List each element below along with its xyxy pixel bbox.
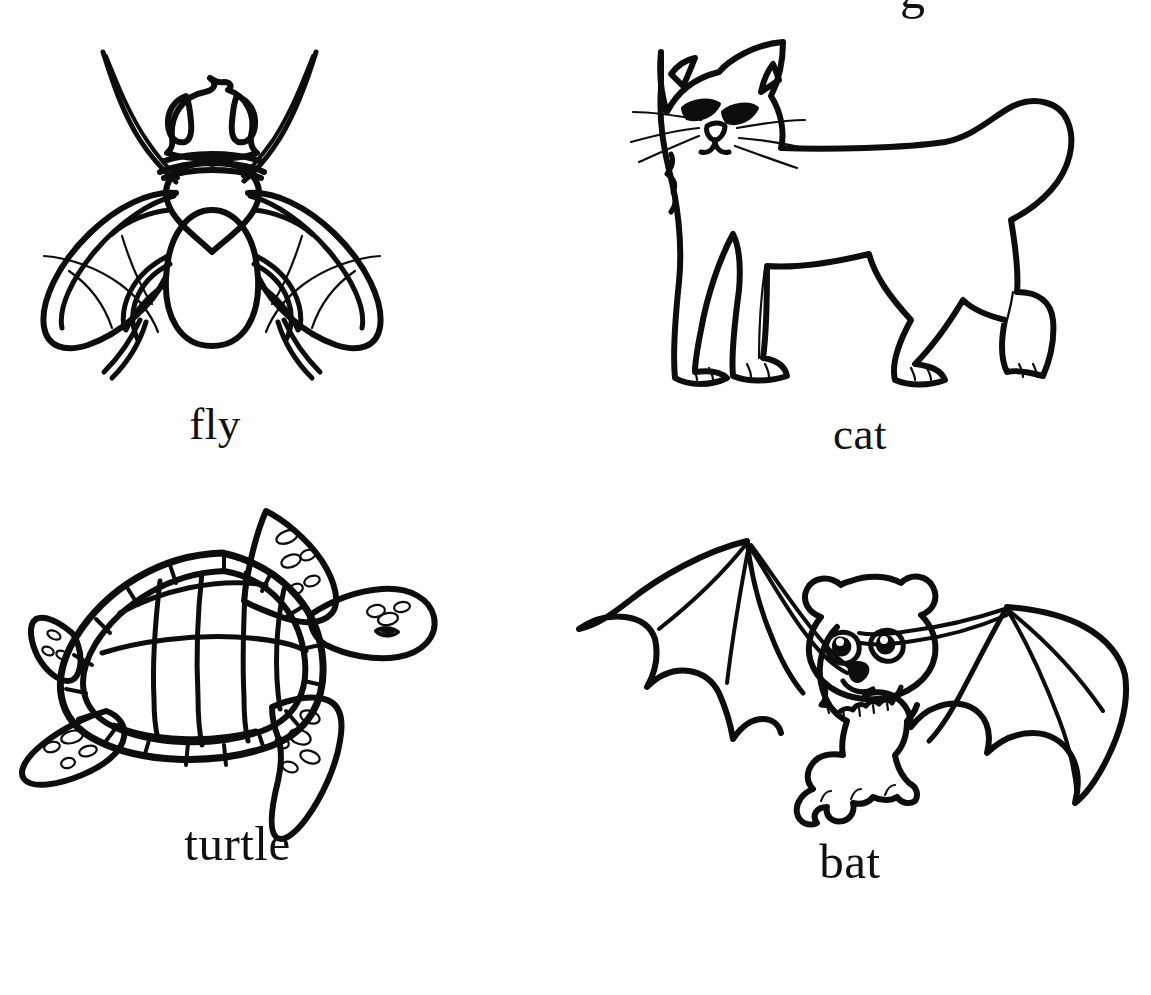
worksheet-page: g bbox=[0, 0, 1151, 995]
label-cat: cat bbox=[615, 408, 1105, 460]
picture-card-fly[interactable]: fly bbox=[0, 20, 430, 460]
turtle-line-art bbox=[10, 485, 465, 845]
label-bat: bat bbox=[555, 833, 1145, 890]
picture-card-cat[interactable]: cat bbox=[615, 20, 1105, 460]
cat-line-art bbox=[615, 20, 1105, 400]
label-fly: fly bbox=[0, 398, 430, 450]
cut-off-glyph: g bbox=[900, 0, 925, 20]
picture-card-bat[interactable]: bat bbox=[555, 515, 1145, 905]
picture-card-turtle[interactable]: turtle bbox=[10, 485, 465, 905]
bat-line-art bbox=[555, 515, 1145, 835]
label-turtle: turtle bbox=[10, 815, 465, 872]
fly-line-art bbox=[0, 20, 430, 400]
